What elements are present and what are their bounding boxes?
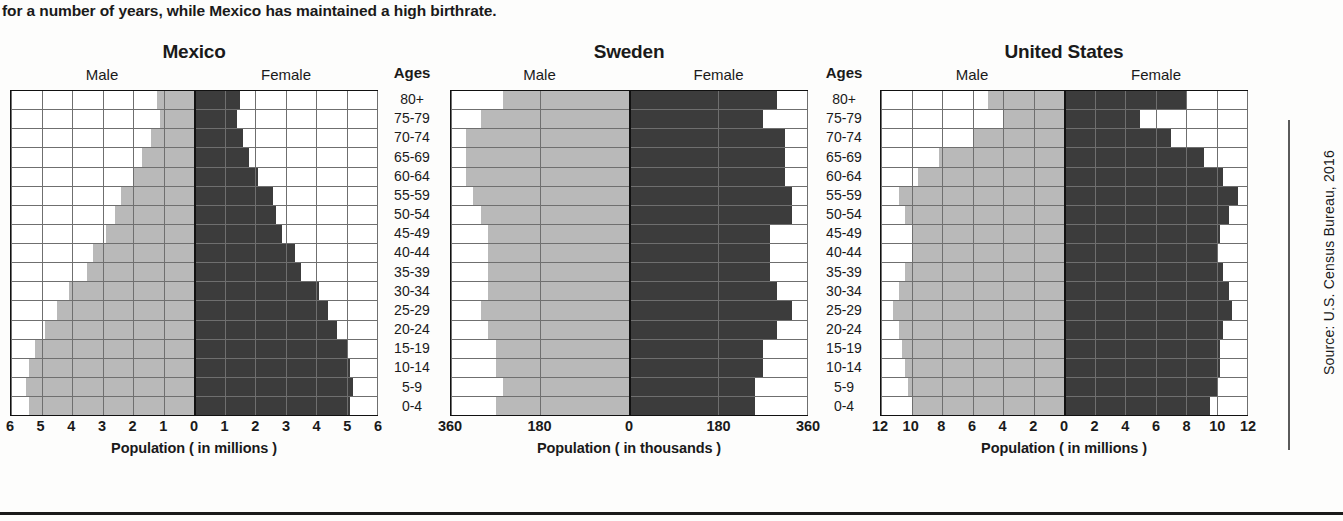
pyramid-row [881,378,1247,397]
bar-female [629,282,777,300]
ages-labels-mexico: 80+75-7970-7465-6960-6455-5950-5445-4940… [386,90,438,416]
bar-male [905,206,1064,224]
bar-female [629,359,763,377]
bar-female [194,148,249,166]
male-label-mexico: Male [10,66,194,83]
age-group-label: 40-44 [818,243,870,262]
bar-female [194,263,301,281]
bar-male [466,129,629,147]
age-group-label: 80+ [818,90,870,109]
x-tick-label: 6 [6,418,14,434]
x-axis-title-sweden: Population ( in thousands ) [450,438,808,456]
bar-female [1064,244,1217,262]
gridline [1247,91,1248,415]
x-axis-ticks-united-states: 12108642024681012 [880,416,1248,438]
bar-male [466,148,629,166]
age-group-label: 25-29 [818,301,870,320]
bar-male [488,321,629,339]
bar-male [69,282,194,300]
pyramid-row [881,206,1247,225]
pyramid-plot-sweden [450,90,808,416]
age-group-label: 10-14 [818,358,870,377]
x-tick-label: 10 [1209,418,1225,434]
age-group-label: 50-54 [386,205,438,224]
bar-female [629,129,785,147]
bar-male [57,301,194,319]
x-tick-label: 1 [221,418,229,434]
age-group-label: 70-74 [818,128,870,147]
bar-male [905,359,1064,377]
ages-header-us: Ages [818,40,870,90]
age-group-label: 70-74 [386,128,438,147]
bar-male [488,225,629,243]
chart-title-sweden: Sweden [450,40,808,66]
age-group-label: 75-79 [386,109,438,128]
chart-title-united-states: United States [880,40,1248,66]
pyramid-row [451,148,807,167]
bar-male [899,187,1064,205]
x-tick-label: 4 [1121,418,1129,434]
age-group-label: 10-14 [386,358,438,377]
bar-male [29,397,194,415]
age-group-label: 30-34 [386,282,438,301]
bar-male [151,129,194,147]
ages-header-mexico: Ages [386,40,438,90]
pyramid-row [11,397,377,415]
pyramid-row [881,148,1247,167]
age-group-label: 15-19 [818,339,870,358]
female-label-mexico: Female [194,66,378,83]
pyramid-row [881,359,1247,378]
age-group-label: 50-54 [818,205,870,224]
bar-male [35,340,194,358]
bar-male [908,378,1064,396]
x-tick-label: 2 [129,418,137,434]
bar-male [899,282,1064,300]
bar-female [629,378,755,396]
pyramid-row [451,301,807,320]
bar-female [194,321,337,339]
bar-female [1064,397,1210,415]
bar-male [488,244,629,262]
bar-female [1064,225,1220,243]
x-tick-label: 6 [1152,418,1160,434]
age-group-label: 20-24 [818,320,870,339]
pyramid-row [881,225,1247,244]
age-group-label: 20-24 [386,320,438,339]
pyramid-row [881,110,1247,129]
pyramid-row [11,225,377,244]
pyramid-row [451,206,807,225]
age-group-label: 75-79 [818,109,870,128]
bar-female [194,397,350,415]
bar-female [629,321,777,339]
bar-male [106,225,194,243]
bar-male [496,359,630,377]
age-group-label: 15-19 [386,339,438,358]
bar-female [629,263,770,281]
x-tick-label: 2 [1029,418,1037,434]
bar-female [629,225,770,243]
bar-male [488,263,629,281]
x-tick-label: 6 [374,418,382,434]
x-tick-label: 8 [1183,418,1191,434]
bar-female [194,168,258,186]
x-tick-label: 0 [625,418,633,434]
pyramid-row [451,187,807,206]
age-group-label: 0-4 [818,397,870,416]
bar-male [899,321,1064,339]
bar-female [194,91,240,109]
pyramid-row [11,187,377,206]
ages-column-mexico: Ages 80+75-7970-7465-6960-6455-5950-5445… [386,40,438,416]
pyramid-row [881,168,1247,187]
bar-male [912,244,1065,262]
age-group-label: 35-39 [386,263,438,282]
pyramid-row [881,321,1247,340]
female-label-sweden: Female [629,66,808,83]
pyramid-row [881,340,1247,359]
ages-column-us: Ages 80+75-7970-7465-6960-6455-5950-5445… [818,40,870,416]
source-note: Source: U.S. Census Bureau, 2016 [1321,150,1337,375]
x-tick-label: 12 [1240,418,1256,434]
bar-male [939,148,1064,166]
bar-male [902,340,1064,358]
bar-female [194,359,350,377]
age-group-label: 60-64 [386,167,438,186]
